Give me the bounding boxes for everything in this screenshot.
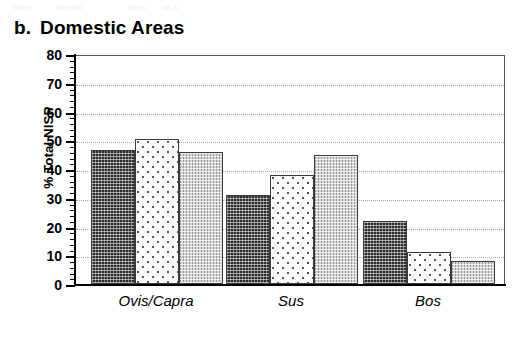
bar bbox=[451, 261, 495, 284]
x-tick-label: Bos bbox=[415, 292, 441, 309]
y-tick-minor-mark bbox=[70, 147, 75, 148]
y-tick-minor-mark bbox=[70, 216, 75, 217]
y-tick-label: 40 bbox=[46, 162, 62, 178]
remnant-fragment: nnnn bbox=[14, 4, 32, 11]
y-tick-label: 80 bbox=[46, 47, 62, 63]
y-tick-minor-mark bbox=[70, 251, 75, 252]
y-tick-minor-mark bbox=[70, 176, 75, 177]
cropped-text-remnant: nnnn nnnnnn nnnn nn n bbox=[0, 0, 529, 14]
bar bbox=[91, 150, 135, 284]
y-tick-mark bbox=[66, 170, 75, 172]
y-tick-mark bbox=[66, 84, 75, 86]
y-tick-minor-mark bbox=[70, 107, 75, 108]
y-tick-label: 20 bbox=[46, 220, 62, 236]
bar bbox=[363, 221, 407, 284]
bar bbox=[407, 252, 451, 284]
bar bbox=[135, 139, 179, 284]
plot-area bbox=[75, 55, 505, 285]
y-tick-minor-mark bbox=[70, 136, 75, 137]
y-tick-minor-mark bbox=[70, 279, 75, 280]
y-tick-minor-mark bbox=[70, 67, 75, 68]
remnant-fragment: nn n bbox=[162, 4, 178, 11]
y-tick-minor-mark bbox=[70, 210, 75, 211]
y-tick-mark bbox=[66, 256, 75, 258]
y-tick-label: 10 bbox=[46, 248, 62, 264]
bar bbox=[270, 175, 314, 284]
bar bbox=[314, 155, 358, 284]
x-tick-label: Ovis/Capra bbox=[118, 292, 193, 309]
remnant-fragment: nnnn bbox=[128, 4, 146, 11]
y-tick-minor-mark bbox=[70, 153, 75, 154]
y-tick-minor-mark bbox=[70, 222, 75, 223]
x-axis-spine bbox=[74, 284, 506, 286]
y-tick-minor-mark bbox=[70, 187, 75, 188]
gridline bbox=[76, 114, 504, 115]
y-tick-minor-mark bbox=[70, 130, 75, 131]
y-tick-minor-mark bbox=[70, 205, 75, 206]
y-tick-minor-mark bbox=[70, 193, 75, 194]
y-tick-minor-mark bbox=[70, 239, 75, 240]
y-tick-minor-mark bbox=[70, 124, 75, 125]
y-tick-label: 70 bbox=[46, 76, 62, 92]
bar bbox=[226, 195, 270, 284]
y-tick-mark bbox=[66, 199, 75, 201]
y-tick-mark bbox=[66, 113, 75, 115]
bar bbox=[179, 152, 223, 284]
y-tick-minor-mark bbox=[70, 182, 75, 183]
y-tick-minor-mark bbox=[70, 78, 75, 79]
y-tick-minor-mark bbox=[70, 90, 75, 91]
y-tick-minor-mark bbox=[70, 159, 75, 160]
y-tick-mark bbox=[66, 228, 75, 230]
y-tick-label: 50 bbox=[46, 133, 62, 149]
y-tick-minor-mark bbox=[70, 268, 75, 269]
y-tick-mark bbox=[66, 285, 75, 287]
remnant-fragment: nnnnnn bbox=[56, 4, 82, 11]
y-tick-label: 30 bbox=[46, 191, 62, 207]
y-tick-minor-mark bbox=[70, 233, 75, 234]
y-tick-minor-mark bbox=[70, 101, 75, 102]
y-tick-label: 0 bbox=[54, 277, 62, 293]
figure-panel-b: nnnn nnnnnn nnnn nn n b.Domestic Areas %… bbox=[0, 0, 529, 337]
y-tick-label: 60 bbox=[46, 105, 62, 121]
y-tick-minor-mark bbox=[70, 274, 75, 275]
panel-title: b.Domestic Areas bbox=[14, 17, 184, 39]
x-tick-label: Sus bbox=[278, 292, 304, 309]
panel-title-text: Domestic Areas bbox=[40, 17, 184, 38]
y-tick-minor-mark bbox=[70, 245, 75, 246]
panel-letter: b. bbox=[14, 17, 31, 38]
y-tick-minor-mark bbox=[70, 164, 75, 165]
y-tick-minor-mark bbox=[70, 262, 75, 263]
gridline bbox=[76, 85, 504, 86]
y-tick-mark bbox=[66, 141, 75, 143]
y-tick-minor-mark bbox=[70, 72, 75, 73]
y-tick-mark bbox=[66, 55, 75, 57]
y-tick-minor-mark bbox=[70, 61, 75, 62]
y-tick-minor-mark bbox=[70, 118, 75, 119]
y-tick-minor-mark bbox=[70, 95, 75, 96]
